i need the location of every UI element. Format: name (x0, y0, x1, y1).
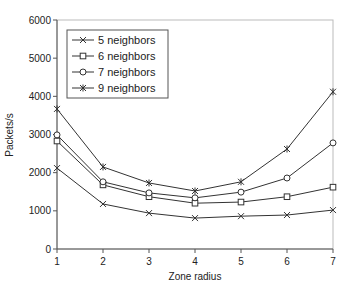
x-axis: 1234567 (54, 249, 336, 267)
y-tick-label: 5000 (29, 53, 52, 64)
legend-label: 6 neighbors (98, 50, 156, 62)
legend: 5 neighbors6 neighbors7 neighbors9 neigh… (67, 30, 168, 98)
x-tick-label: 4 (192, 256, 198, 267)
x-tick-label: 7 (330, 256, 336, 267)
y-tick-label: 3000 (29, 129, 52, 140)
legend-label: 7 neighbors (98, 66, 156, 78)
y-tick-label: 6000 (29, 15, 52, 26)
chart-canvas: 0100020003000400050006000 1234567 Packet… (0, 0, 351, 297)
y-tick-label: 1000 (29, 205, 52, 216)
y-axis-label: Packets/s (4, 113, 15, 156)
y-tick-label: 0 (45, 244, 51, 255)
x-tick-label: 1 (54, 256, 60, 267)
x-tick-label: 6 (284, 256, 290, 267)
series-group (54, 88, 336, 221)
y-axis: 0100020003000400050006000 (29, 15, 57, 255)
y-tick-label: 2000 (29, 167, 52, 178)
x-tick-label: 3 (146, 256, 152, 267)
y-tick-label: 4000 (29, 91, 52, 102)
x-axis-label: Zone radius (169, 271, 222, 282)
line-chart: 0100020003000400050006000 1234567 Packet… (0, 0, 351, 297)
x-tick-label: 2 (100, 256, 106, 267)
legend-label: 9 neighbors (98, 82, 156, 94)
x-tick-label: 5 (238, 256, 244, 267)
legend-label: 5 neighbors (98, 34, 156, 46)
